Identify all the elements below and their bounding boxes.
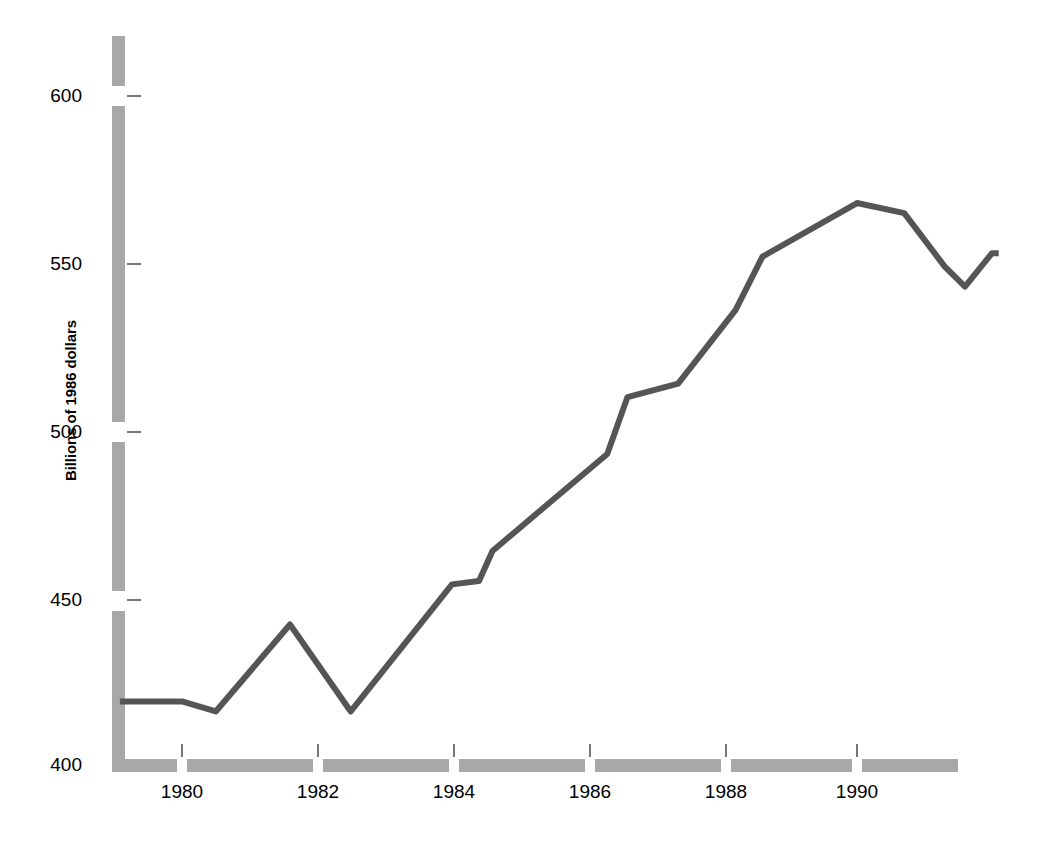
y-axis-title: Billions of 1986 dollars <box>62 271 79 531</box>
y-tick-label-550: 550 <box>30 253 82 275</box>
x-tick-label-1980: 1980 <box>142 781 222 803</box>
chart-plot-area <box>0 0 1054 846</box>
x-tick-label-1982: 1982 <box>278 781 358 803</box>
data-line-series-0 <box>120 203 999 711</box>
x-tick-label-1990: 1990 <box>817 781 897 803</box>
y-axis-ticks <box>127 96 141 600</box>
y-tick-label-500: 500 <box>30 421 82 443</box>
x-tick-label-1986: 1986 <box>550 781 630 803</box>
x-tick-label-1984: 1984 <box>414 781 494 803</box>
x-axis-ticks <box>182 744 857 757</box>
x-axis-bar <box>112 759 958 772</box>
y-tick-label-400: 400 <box>30 754 82 776</box>
y-tick-label-450: 450 <box>30 589 82 611</box>
y-axis-bar <box>112 36 125 772</box>
y-tick-label-600: 600 <box>30 85 82 107</box>
chart-figure: Billions of 1986 dollars 600 550 500 450… <box>0 0 1054 846</box>
x-tick-label-1988: 1988 <box>686 781 766 803</box>
